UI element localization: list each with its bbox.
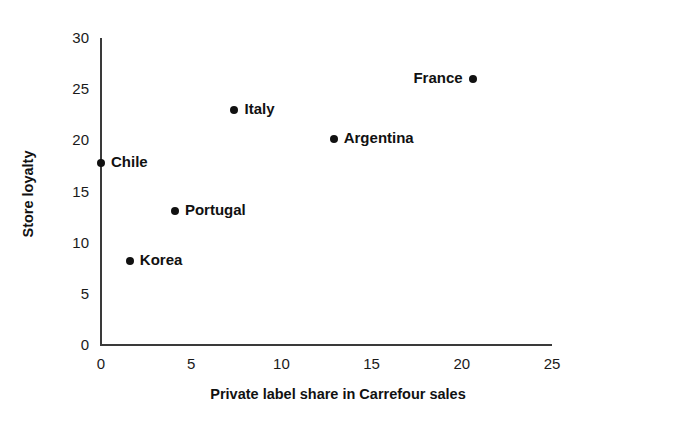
x-tick-0: 0 [81,355,121,372]
marker-dot-icon [97,159,105,167]
point-label-portugal: Portugal [185,201,246,218]
y-axis-title: Store loyalty [20,94,36,294]
marker-dot-icon [469,75,477,83]
point-label-korea: Korea [140,251,183,268]
x-tick-5: 5 [171,355,211,372]
x-tick-10: 10 [261,355,301,372]
y-axis-line [100,38,102,346]
point-label-france: France [413,69,462,86]
x-axis-line [100,344,552,346]
marker-dot-icon [126,257,134,265]
x-tick-25: 25 [532,355,572,372]
point-label-chile: Chile [111,153,148,170]
marker-dot-icon [330,135,338,143]
y-tick-0: 0 [53,336,89,353]
point-label-argentina: Argentina [344,129,414,146]
y-tick-10: 10 [53,234,89,251]
marker-dot-icon [171,207,179,215]
y-tick-5: 5 [53,285,89,302]
point-label-italy: Italy [244,100,274,117]
scatter-chart: 051015202530 0510152025 ChileKoreaPortug… [0,0,676,431]
x-tick-20: 20 [442,355,482,372]
marker-dot-icon [230,106,238,114]
y-tick-25: 25 [53,80,89,97]
y-tick-20: 20 [53,131,89,148]
y-tick-30: 30 [53,29,89,46]
x-tick-15: 15 [352,355,392,372]
y-tick-15: 15 [53,183,89,200]
x-axis-title: Private label share in Carrefour sales [0,386,676,402]
